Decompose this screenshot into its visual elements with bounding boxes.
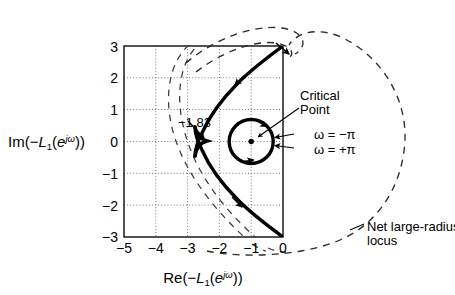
- figure-background: [0, 0, 455, 295]
- y-tick-2: 2: [110, 70, 118, 86]
- x-tick--2: −2: [211, 240, 227, 256]
- x-tick--3: −3: [180, 240, 196, 256]
- nyquist-figure: 3 2 1 0 −1 −2 −3 −5 −4 −3 −2 −1 0 Re(−L1…: [0, 0, 455, 295]
- y-tick--1: −1: [102, 166, 118, 182]
- critical-point-label-line1: Critical: [300, 88, 340, 103]
- x-tick--1: −1: [243, 240, 259, 256]
- y-axis-label-exponent: jω: [63, 133, 75, 144]
- x-axis-label-symbol: L: [196, 269, 204, 286]
- critical-point-marker: [249, 139, 254, 144]
- y-axis-label-symbol: L: [38, 133, 46, 150]
- y-axis-label-close: )): [75, 133, 85, 150]
- y-axis-label-base: e: [57, 133, 65, 150]
- large-radius-label-line2: locus: [367, 233, 398, 248]
- x-axis-label-prefix: Re(−: [163, 269, 196, 286]
- y-tick-0: 0: [110, 134, 118, 150]
- y-tick--2: −2: [102, 198, 118, 214]
- gain-crossing-label: −1.83: [178, 115, 211, 130]
- critical-point-label-line2: Point: [300, 102, 330, 117]
- x-axis-label-base: e: [215, 269, 223, 286]
- omega-positive-pi-label: ω = +π: [314, 142, 356, 157]
- y-tick-1: 1: [110, 102, 118, 118]
- x-axis-label-close: )): [233, 269, 243, 286]
- x-axis-label-exponent: jω: [221, 269, 233, 280]
- x-tick-0: 0: [279, 240, 287, 256]
- omega-negative-pi-label: ω = −π: [314, 127, 356, 142]
- x-tick--5: −5: [116, 240, 132, 256]
- x-tick--4: −4: [148, 240, 164, 256]
- large-radius-label-line1: Net large-radius: [367, 219, 455, 234]
- y-axis-label-prefix: Im(−: [8, 133, 39, 150]
- y-tick-3: 3: [110, 39, 118, 55]
- nyquist-plot-svg: 3 2 1 0 −1 −2 −3 −5 −4 −3 −2 −1 0 Re(−L1…: [0, 0, 455, 295]
